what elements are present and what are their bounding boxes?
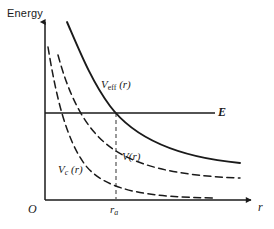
energy-level-label: E — [218, 106, 226, 118]
ra-subscript: a — [114, 208, 118, 217]
v-eff-curve — [67, 22, 240, 163]
v-argument: (r) — [129, 150, 141, 162]
veff-base: V — [101, 78, 108, 90]
turning-point-tick-label: ra — [110, 204, 118, 217]
v-curve-label: V(r) — [122, 151, 140, 164]
v-eff-curve-label: Veff (r) — [101, 79, 131, 92]
origin-label: O — [28, 203, 37, 215]
vc-base: V — [58, 163, 65, 175]
radius-axis-title: r — [258, 201, 263, 213]
veff-argument: (r) — [116, 78, 130, 90]
potential-energy-figure: Energy O r ra E Veff (r) V(r) Vc (r) — [0, 0, 274, 229]
vc-argument: (r) — [68, 163, 82, 175]
v-base: V — [122, 150, 129, 162]
energy-axis-title: Energy — [7, 8, 43, 19]
plot-canvas — [0, 0, 274, 229]
v-c-curve-label: Vc (r) — [58, 164, 83, 177]
